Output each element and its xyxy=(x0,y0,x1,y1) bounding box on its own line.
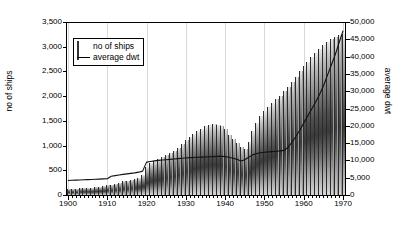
x-axis-tick-mark-minor xyxy=(84,196,85,198)
y-axis-left-tick-label: 1,000 xyxy=(42,142,62,150)
y-axis-right-tick-label: 0 xyxy=(350,191,354,199)
y-axis-right-tick-mark xyxy=(346,195,350,196)
x-axis-tick-mark-minor xyxy=(339,196,340,198)
y-axis-right-tick-label: 50,000 xyxy=(350,18,374,26)
x-axis-tick-mark-minor xyxy=(221,196,222,198)
y-axis-right-tick-mark xyxy=(346,109,350,110)
x-axis-tick-mark-minor xyxy=(158,196,159,198)
plot-border-top xyxy=(66,22,346,23)
x-axis-tick-mark-minor xyxy=(92,196,93,198)
x-axis-tick-mark-minor xyxy=(198,196,199,198)
y-axis-right-tick-mark xyxy=(346,143,350,144)
x-axis-tick-mark-minor xyxy=(202,196,203,198)
x-axis-tick-mark-major xyxy=(147,196,148,200)
y-axis-right-tick-mark xyxy=(346,91,350,92)
x-axis-tick-mark-minor xyxy=(194,196,195,198)
x-axis-tick-mark-major xyxy=(107,196,108,200)
x-axis-tick-mark-minor xyxy=(292,196,293,198)
x-axis-tick-label: 1960 xyxy=(284,199,324,208)
legend-item-average-dwt: average dwt xyxy=(77,52,139,63)
y-axis-left-tick-mark xyxy=(63,96,67,97)
x-axis-tick-mark-minor xyxy=(80,196,81,198)
y-axis-left-tick-mark xyxy=(63,71,67,72)
x-axis-tick-mark-minor xyxy=(143,196,144,198)
x-axis-tick-label: 1910 xyxy=(87,199,127,208)
x-axis-tick-mark-minor xyxy=(88,196,89,198)
x-axis-tick-mark-major xyxy=(186,196,187,200)
x-axis-tick-mark-minor xyxy=(288,196,289,198)
x-axis-tick-mark-minor xyxy=(135,196,136,198)
x-axis-tick-mark-minor xyxy=(233,196,234,198)
x-axis-tick-mark-minor xyxy=(127,196,128,198)
x-axis-tick-mark-minor xyxy=(115,196,116,198)
x-axis-tick-mark-minor xyxy=(131,196,132,198)
x-axis-tick-mark-minor xyxy=(268,196,269,198)
y-axis-left-tick-label: 3,000 xyxy=(42,43,62,51)
x-axis-tick-mark-minor xyxy=(217,196,218,198)
y-axis-right-tick-mark xyxy=(346,39,350,40)
y-axis-left-tick-mark xyxy=(63,195,67,196)
x-axis-tick-mark-minor xyxy=(174,196,175,198)
x-axis-tick-mark-minor xyxy=(335,196,336,198)
y-axis-left-tick-label: 2,500 xyxy=(42,67,62,75)
x-axis-tick-mark-minor xyxy=(178,196,179,198)
legend-item-no-of-ships: no of ships xyxy=(77,41,139,52)
x-axis-tick-mark-major xyxy=(304,196,305,200)
x-axis-tick-mark-minor xyxy=(99,196,100,198)
y-axis-right-tick-label: 20,000 xyxy=(350,122,374,130)
y-axis-left-tick-label: 3,500 xyxy=(42,18,62,26)
x-axis-tick-mark-minor xyxy=(103,196,104,198)
bar-swatch-icon xyxy=(77,42,90,51)
x-axis-tick-mark-minor xyxy=(308,196,309,198)
y-axis-left-tick-mark xyxy=(63,22,67,23)
x-axis-tick-mark-minor xyxy=(272,196,273,198)
x-axis-tick-mark-minor xyxy=(209,196,210,198)
x-axis-tick-mark-minor xyxy=(280,196,281,198)
x-axis-tick-label: 1930 xyxy=(166,199,206,208)
x-axis-tick-mark-major xyxy=(68,196,69,200)
chart-container: 05001,0001,5002,0002,5003,0003,500 05,00… xyxy=(0,0,397,230)
x-axis-tick-mark-minor xyxy=(257,196,258,198)
y-axis-left-tick-mark xyxy=(63,170,67,171)
y-axis-right-tick-label: 45,000 xyxy=(350,35,374,43)
x-axis-tick-mark-minor xyxy=(327,196,328,198)
x-axis-tick-mark-minor xyxy=(296,196,297,198)
y-axis-left-tick-label: 1,500 xyxy=(42,117,62,125)
y-axis-right-tick-mark xyxy=(346,178,350,179)
y-axis-left-tick-label: 2,000 xyxy=(42,92,62,100)
y-axis-left-tick-label: 500 xyxy=(49,166,62,174)
x-axis-tick-mark-minor xyxy=(72,196,73,198)
x-axis-tick-mark-minor xyxy=(253,196,254,198)
y-axis-right-tick-mark xyxy=(346,22,350,23)
x-axis-tick-mark-minor xyxy=(170,196,171,198)
x-axis-tick-mark-major xyxy=(343,196,344,200)
x-axis-tick-mark-minor xyxy=(76,196,77,198)
x-axis-tick-mark-minor xyxy=(323,196,324,198)
x-axis-tick-mark-minor xyxy=(331,196,332,198)
x-axis-tick-mark-minor xyxy=(237,196,238,198)
y-axis-right-tick-label: 35,000 xyxy=(350,70,374,78)
y-axis-right-title: average dwt xyxy=(383,51,393,131)
y-axis-left-tick-mark xyxy=(63,121,67,122)
x-axis-tick-label: 1900 xyxy=(48,199,88,208)
x-axis-tick-mark-minor xyxy=(276,196,277,198)
x-axis-tick-mark-minor xyxy=(139,196,140,198)
y-axis-left-title: no of ships xyxy=(4,51,14,131)
x-axis-tick-mark-minor xyxy=(162,196,163,198)
x-axis-tick-mark-minor xyxy=(154,196,155,198)
x-axis-tick-mark-minor xyxy=(245,196,246,198)
x-axis-tick-mark-minor xyxy=(95,196,96,198)
x-axis-tick-label: 1940 xyxy=(205,199,245,208)
x-axis-tick-mark-minor xyxy=(229,196,230,198)
x-axis-tick-mark-minor xyxy=(312,196,313,198)
line-swatch-icon xyxy=(77,53,90,62)
y-axis-right-tick-label: 15,000 xyxy=(350,139,374,147)
y-axis-right-tick-label: 30,000 xyxy=(350,87,374,95)
y-axis-right-tick-label: 5,000 xyxy=(350,174,370,182)
x-axis-tick-mark-minor xyxy=(119,196,120,198)
x-axis-tick-mark-minor xyxy=(284,196,285,198)
y-axis-right-tick-label: 40,000 xyxy=(350,53,374,61)
x-axis-tick-mark-minor xyxy=(319,196,320,198)
x-axis-tick-mark-minor xyxy=(190,196,191,198)
y-axis-right-tick-label: 25,000 xyxy=(350,105,374,113)
